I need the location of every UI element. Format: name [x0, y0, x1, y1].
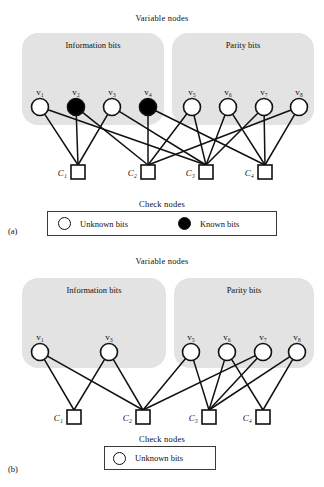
variable-node-label: v₆	[223, 332, 231, 342]
variable-node-label: v₇	[259, 332, 267, 342]
variable-node-unknown	[104, 99, 121, 116]
panel-a: Variable nodes Information bits Parity b…	[0, 0, 324, 245]
variable-node-label: v₈	[293, 332, 301, 342]
variable-node-known	[68, 99, 85, 116]
legend-a: Unknown bits Known bits	[47, 211, 277, 236]
variable-node-unknown	[184, 99, 201, 116]
variable-node-unknown	[289, 344, 306, 361]
check-node-label: C₄	[243, 413, 252, 423]
check-node-label: C₁	[54, 413, 63, 423]
known-bit-circle-icon	[178, 217, 191, 230]
variable-node-unknown	[255, 344, 272, 361]
check-node-group-b: C₁C₂C₃C₄	[54, 410, 270, 424]
variable-node-label: v₂	[72, 87, 80, 97]
check-nodes-title-b: Check nodes	[0, 434, 324, 444]
variable-node-label: v₁	[36, 87, 44, 97]
check-node	[136, 410, 150, 424]
variable-node-unknown	[101, 344, 118, 361]
check-node	[67, 410, 81, 424]
check-node-label: C₄	[245, 168, 254, 178]
edge	[264, 115, 265, 165]
check-node-label: C₂	[128, 168, 137, 178]
check-node-label: C₁	[58, 168, 67, 178]
information-bits-label-a: Information bits	[65, 40, 120, 50]
information-bits-label-b: Information bits	[66, 285, 121, 295]
variable-node-unknown	[183, 344, 200, 361]
legend-label-unknown-b: Unknown bits	[135, 453, 183, 463]
variable-node-unknown	[32, 344, 49, 361]
variable-node-label: v₃	[105, 332, 113, 342]
variable-node-label: v₈	[295, 87, 303, 97]
variable-node-label: v₇	[260, 87, 268, 97]
variable-node-label: v₄	[144, 87, 152, 97]
check-node	[256, 410, 270, 424]
variable-node-label: v₁	[36, 332, 44, 342]
check-node-label: C₃	[189, 413, 198, 423]
legend-b: Unknown bits	[104, 446, 216, 470]
check-node	[258, 165, 272, 179]
legend-entry-known-a: Known bits	[178, 217, 239, 230]
panel-letter-a: (a)	[8, 226, 17, 236]
check-node	[71, 165, 85, 179]
check-node-label: C₃	[186, 168, 195, 178]
variable-node-unknown	[219, 344, 236, 361]
check-node-group-a: C₁C₂C₃C₄	[58, 165, 272, 179]
variable-node-unknown	[220, 99, 237, 116]
variable-node-group-a: v₁v₂v₃v₄v₅v₆v₇v₈	[32, 87, 308, 116]
check-node	[141, 165, 155, 179]
unknown-bit-circle-icon	[113, 452, 126, 465]
variable-node-unknown	[32, 99, 49, 116]
legend-label-known-a: Known bits	[200, 219, 239, 229]
legend-entry-unknown-a: Unknown bits	[58, 217, 128, 230]
variable-node-label: v₅	[188, 87, 196, 97]
check-nodes-title-a: Check nodes	[0, 199, 324, 209]
variable-node-unknown	[291, 99, 308, 116]
variable-node-label: v₃	[108, 87, 116, 97]
variable-node-label: v₅	[187, 332, 195, 342]
parity-bits-label-b: Parity bits	[227, 285, 262, 295]
panel-b: Variable nodes Information bits Parity b…	[0, 245, 324, 487]
variable-node-label: v₆	[224, 87, 232, 97]
check-node	[199, 165, 213, 179]
legend-label-unknown-a: Unknown bits	[80, 219, 128, 229]
check-node	[202, 410, 216, 424]
panel-letter-b: (b)	[8, 464, 18, 474]
variable-node-unknown	[256, 99, 273, 116]
variable-node-known	[140, 99, 157, 116]
legend-entry-unknown-b: Unknown bits	[113, 452, 183, 465]
check-node-label: C₂	[123, 413, 132, 423]
unknown-bit-circle-icon	[58, 217, 71, 230]
parity-bits-label-a: Parity bits	[226, 40, 261, 50]
